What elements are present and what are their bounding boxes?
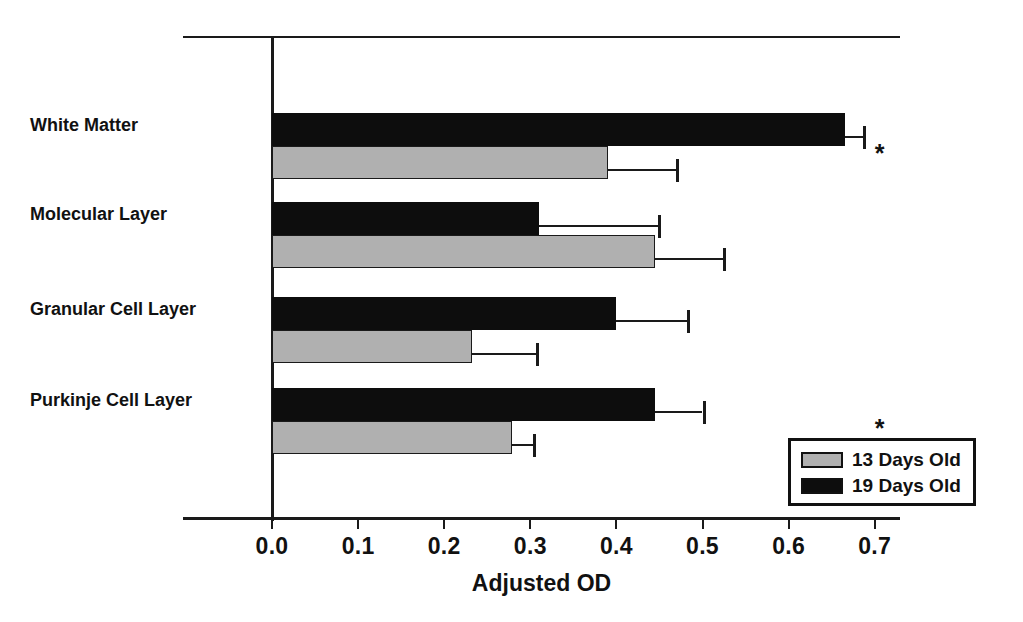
error-bar-cap-0-0	[863, 126, 866, 149]
legend-item-19-days: 19 Days Old	[791, 473, 973, 499]
bar-13-days-old-0	[272, 146, 608, 179]
x-tick-6	[788, 520, 790, 529]
bar-19-days-old-0	[272, 113, 845, 146]
x-tick-label-2: 0.2	[404, 533, 484, 560]
axis-bottom-line	[183, 517, 900, 520]
x-tick-label-0: 0.0	[232, 533, 312, 560]
error-bar-cap-1-0	[658, 215, 661, 238]
bar-19-days-old-2	[272, 297, 616, 330]
x-tick-label-7: 0.7	[835, 533, 915, 560]
x-tick-label-1: 0.1	[318, 533, 398, 560]
chart-page: 0.00.10.20.30.40.50.60.7 White MatterMol…	[0, 0, 1023, 622]
category-label-wrap-2: Granular Cell Layer	[30, 299, 270, 321]
x-tick-4	[615, 520, 617, 529]
error-bar-line-3-1	[512, 444, 533, 446]
error-bar-cap-2-0	[687, 310, 690, 333]
category-label: Purkinje Cell Layer	[30, 390, 270, 411]
error-bar-line-0-0	[845, 136, 863, 138]
x-tick-label-3: 0.3	[490, 533, 570, 560]
x-tick-label-6: 0.6	[749, 533, 829, 560]
bar-13-days-old-2	[272, 330, 472, 363]
bar-chart: 0.00.10.20.30.40.50.60.7 White MatterMol…	[0, 0, 1023, 622]
error-bar-line-1-1	[655, 258, 723, 260]
error-bar-cap-2-1	[536, 343, 539, 366]
x-tick-0	[271, 520, 273, 529]
category-label: White Matter	[30, 115, 270, 136]
x-axis-title: Adjusted OD	[183, 570, 900, 597]
error-bar-line-1-0	[539, 225, 658, 227]
x-tick-7	[874, 520, 876, 529]
significance-star-0: *	[875, 141, 885, 166]
chart-legend: 13 Days Old 19 Days Old	[788, 438, 976, 506]
x-tick-3	[529, 520, 531, 529]
x-tick-2	[443, 520, 445, 529]
bar-13-days-old-3	[272, 421, 512, 454]
category-label: Granular Cell Layer	[30, 299, 270, 320]
legend-swatch-13-days	[801, 452, 843, 468]
error-bar-line-2-0	[616, 320, 687, 322]
x-tick-label-4: 0.4	[576, 533, 656, 560]
error-bar-cap-0-1	[676, 159, 679, 182]
category-label-wrap-3: Purkinje Cell Layer	[30, 390, 270, 412]
error-bar-cap-3-0	[703, 401, 706, 424]
error-bar-line-0-1	[608, 169, 676, 171]
category-label-wrap-0: White Matter	[30, 115, 270, 137]
legend-swatch-19-days	[801, 478, 843, 494]
x-tick-5	[702, 520, 704, 529]
bar-19-days-old-3	[272, 388, 655, 421]
error-bar-cap-1-1	[723, 248, 726, 271]
legend-label-19-days: 19 Days Old	[852, 475, 961, 497]
bar-13-days-old-1	[272, 235, 655, 268]
x-tick-label-5: 0.5	[663, 533, 743, 560]
error-bar-line-3-0	[655, 411, 702, 413]
x-tick-1	[357, 520, 359, 529]
category-label: Molecular Layer	[30, 204, 270, 225]
error-bar-line-2-1	[472, 353, 537, 355]
category-label-wrap-1: Molecular Layer	[30, 204, 270, 226]
legend-item-13-days: 13 Days Old	[791, 447, 973, 473]
error-bar-cap-3-1	[533, 434, 536, 457]
legend-label-13-days: 13 Days Old	[852, 449, 961, 471]
bar-19-days-old-1	[272, 202, 539, 235]
axis-top-line	[183, 36, 900, 38]
